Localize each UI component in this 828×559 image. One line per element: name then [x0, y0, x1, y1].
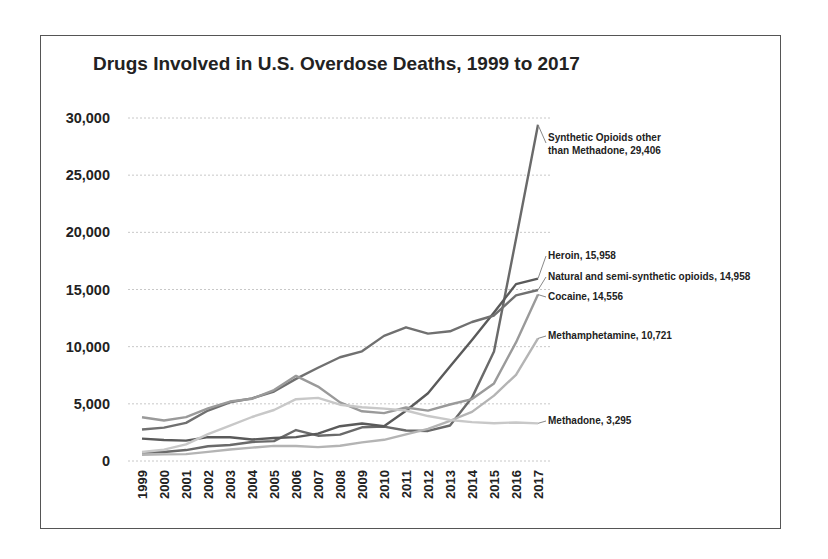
gridlines	[128, 118, 552, 461]
series-label: Methadone, 3,295	[548, 415, 632, 426]
y-tick-label: 20,000	[66, 224, 110, 240]
series-label: Methamphetamine, 10,721	[548, 330, 672, 341]
series-label: Natural and semi-synthetic opioids, 14,9…	[548, 271, 751, 282]
x-tick-label: 2016	[509, 470, 524, 499]
x-tick-label: 2017	[531, 470, 546, 499]
x-tick-label: 2005	[267, 470, 282, 499]
x-tick-label: 2007	[311, 470, 326, 499]
x-tick-label: 2015	[487, 470, 502, 499]
x-tick-label: 2013	[443, 470, 458, 499]
leader-line	[538, 336, 546, 338]
leader-line	[538, 421, 546, 423]
x-tick-label: 2000	[157, 470, 172, 499]
y-tick-label: 5,000	[74, 396, 110, 412]
x-tick-label: 2001	[179, 470, 194, 499]
y-tick-label: 15,000	[66, 282, 110, 298]
x-tick-label: 2006	[289, 470, 304, 499]
leader-line	[538, 277, 546, 290]
series-labels: Synthetic Opioids otherthan Methadone, 2…	[538, 125, 751, 426]
x-tick-label: 2010	[377, 470, 392, 499]
y-axis-ticks: 05,00010,00015,00020,00025,00030,000	[66, 110, 110, 469]
x-tick-label: 2004	[245, 469, 260, 499]
x-tick-label: 2012	[421, 470, 436, 499]
leader-line	[538, 256, 546, 279]
series-label: Synthetic Opioids other	[548, 132, 661, 143]
y-tick-label: 30,000	[66, 110, 110, 126]
x-tick-label: 2003	[223, 470, 238, 499]
series-line	[142, 279, 538, 441]
x-axis-ticks: 1999200020012002200320042005200620072008…	[135, 469, 546, 499]
x-tick-label: 2014	[465, 469, 480, 499]
series-label: Heroin, 15,958	[548, 250, 616, 261]
y-tick-label: 0	[102, 453, 110, 469]
line-chart: 05,00010,00015,00020,00025,00030,000 199…	[0, 0, 828, 559]
x-tick-label: 2008	[333, 470, 348, 499]
x-tick-label: 2002	[201, 470, 216, 499]
y-tick-label: 10,000	[66, 339, 110, 355]
series-label: Cocaine, 14,556	[548, 291, 623, 302]
y-tick-label: 25,000	[66, 167, 110, 183]
series-line	[142, 290, 538, 430]
series-label: than Methadone, 29,406	[548, 145, 661, 156]
leader-line	[538, 125, 546, 143]
x-tick-label: 2011	[399, 470, 414, 498]
leader-line	[538, 295, 546, 297]
x-tick-label: 1999	[135, 470, 150, 499]
x-tick-label: 2009	[355, 470, 370, 499]
